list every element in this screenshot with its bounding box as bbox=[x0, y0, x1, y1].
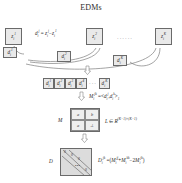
gram-cell-00: a bbox=[71, 109, 85, 120]
sequence-item-K: diK bbox=[99, 78, 110, 89]
gram-cell-11: ⊥ bbox=[85, 120, 99, 131]
sequence-item-1: di1 bbox=[43, 78, 54, 89]
difference-equation: dij = zij−zi1 bbox=[35, 31, 57, 36]
sequence-item-4: di4 bbox=[76, 78, 87, 89]
sequence-item-2: di2 bbox=[54, 78, 65, 89]
diff-token-K-label: diK bbox=[117, 58, 123, 63]
gram-cell-01: b bbox=[85, 109, 99, 120]
diff-token-2: di2 bbox=[57, 51, 71, 62]
diff-token-1-label: di1 bbox=[7, 50, 12, 55]
down-arrow-to-gram bbox=[78, 92, 85, 101]
feature-token-2: zi2 bbox=[86, 28, 103, 45]
diff-token-1: di1 bbox=[3, 47, 17, 58]
edm-matrix: 0 0 0 ••• 0 bbox=[60, 148, 92, 176]
edm-zero-2: 0 bbox=[71, 153, 73, 157]
edm-pipeline-figure: EDMs zi1 zi2 ······ ziK dij = zij−zi1 di… bbox=[0, 0, 182, 183]
sequence-ellipsis: ··· bbox=[87, 81, 99, 86]
difference-sequence-row: di1 di2 di3 di4 ··· diK bbox=[43, 78, 110, 89]
edm-zero-4: 0 bbox=[85, 168, 87, 172]
down-arrow-to-edm bbox=[81, 134, 88, 143]
feature-token-1: zi1 bbox=[5, 28, 22, 45]
edm-zero-1: 0 bbox=[64, 150, 66, 154]
gram-matrix-label: M bbox=[58, 118, 62, 123]
gram-matrix: a b a ⊥ bbox=[70, 108, 100, 132]
feature-token-K-label: ziK bbox=[161, 34, 166, 39]
edm-equation: Dijk =(Mijj+Mikk−2Mijk) bbox=[98, 158, 145, 163]
edm-zero-3: 0 bbox=[78, 157, 80, 161]
edm-matrix-label: D bbox=[49, 159, 53, 164]
edm-inner-dots: ••• bbox=[75, 163, 80, 168]
top-ellipsis: ······ bbox=[117, 36, 133, 41]
down-arrow-to-sequence bbox=[84, 66, 91, 75]
feature-token-K: ziK bbox=[155, 28, 172, 45]
gram-cell-10: a bbox=[71, 120, 85, 131]
gram-space-note: L ∈ R(K−1)×(K−1) bbox=[105, 119, 137, 124]
diff-token-K: diK bbox=[113, 55, 127, 66]
gram-equation: Mijk =<dij,dik>1 bbox=[89, 94, 119, 99]
diff-token-2-label: di2 bbox=[61, 54, 66, 59]
feature-token-1-label: zi1 bbox=[11, 34, 16, 39]
sequence-item-3: di3 bbox=[65, 78, 76, 89]
feature-token-2-label: zi2 bbox=[92, 34, 97, 39]
